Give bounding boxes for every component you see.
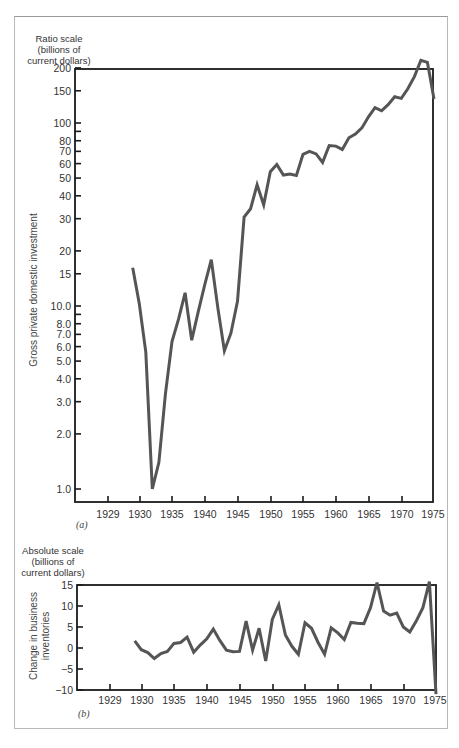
chart-b-series-line [135,582,436,695]
x-tick-label: 1950 [259,508,283,520]
x-tick-label: 1929 [96,508,120,520]
y-tick-label: 6.0 [56,341,71,353]
y-tick-label: 70 [59,145,71,157]
chart-b-unit-line-1: Absolute scale [22,545,84,556]
chart-b-panel-label: (b) [78,708,90,720]
chart-a-unit-line-2: (billions of [38,44,81,55]
y-tick-label: 200 [53,62,71,74]
y-tick-label: 50 [59,172,71,184]
y-tick-label: 2.0 [56,428,71,440]
figure: Ratio scale (billions of current dollars… [0,0,459,748]
x-tick-label: 1975 [423,694,447,706]
chart-a-unit-line-1: Ratio scale [36,33,83,44]
x-tick-label: 1945 [228,694,252,706]
x-tick-label: 1935 [160,508,184,520]
chart-b: Absolute scale (billions of current doll… [21,545,447,720]
chart-a-panel-label: (a) [76,519,88,531]
chart-a-x-ticks: 1929193019351940194519501955196019651970… [96,496,445,520]
y-tick-label: 10 [61,600,73,612]
y-tick-label: 20 [59,245,71,257]
x-tick-label: 1935 [162,694,186,706]
chart-a-plot-frame [75,69,433,502]
y-tick-label: 150 [53,85,71,97]
chart-b-y-ticks: 151050−5−10 [55,579,83,696]
y-tick-label: 5.0 [56,355,71,367]
y-tick-label: 3.0 [56,396,71,408]
chart-a-y-ticks: 200150100807060504030201510.08.07.06.05.… [51,62,81,495]
x-tick-label: 1929 [98,694,122,706]
x-tick-label: 1965 [359,694,383,706]
y-tick-label: 4.0 [56,373,71,385]
x-tick-label: 1970 [392,694,416,706]
x-tick-label: 1955 [291,508,315,520]
y-tick-label: 5 [67,621,73,633]
x-tick-label: 1940 [193,508,217,520]
chart-b-unit-line-3: current dollars) [21,567,84,578]
chart-a-series-line [133,60,434,489]
y-tick-label: −5 [61,663,73,675]
y-tick-label: 10.0 [51,300,72,312]
y-tick-label: 100 [53,117,71,129]
x-tick-label: 1955 [293,694,317,706]
chart-b-y-axis-label-line-2: inventories [40,612,51,660]
x-tick-label: 1940 [195,694,219,706]
chart-b-unit-line-2: (billions of [32,556,75,567]
x-tick-label: 1960 [324,508,348,520]
x-tick-label: 1950 [261,694,285,706]
x-tick-label: 1930 [128,508,152,520]
x-tick-label: 1930 [130,694,154,706]
y-tick-label: 1.0 [56,483,71,495]
y-tick-label: 15 [59,268,71,280]
y-tick-label: 7.0 [56,328,71,340]
x-tick-label: 1945 [226,508,250,520]
y-tick-label: 15 [61,579,73,591]
x-tick-label: 1975 [421,508,445,520]
chart-a-y-axis-label: Gross private domestic investment [28,213,39,367]
y-tick-label: −10 [55,684,73,696]
chart-a: Ratio scale (billions of current dollars… [27,33,445,531]
y-tick-label: 30 [59,213,71,225]
y-tick-label: 0 [67,642,73,654]
x-tick-label: 1965 [357,508,381,520]
chart-b-y-axis-label-line-1: Change in business [28,592,39,680]
x-tick-label: 1970 [390,508,414,520]
y-tick-label: 60 [59,158,71,170]
x-tick-label: 1960 [326,694,350,706]
y-tick-label: 40 [59,190,71,202]
chart-b-x-ticks: 1929193019351940194519501955196019651970… [98,684,447,706]
